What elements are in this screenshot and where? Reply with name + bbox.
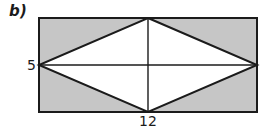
geometry-figure: b) 5 12 — [0, 0, 272, 131]
height-dimension-label: 5 — [25, 58, 36, 73]
width-dimension-label: 12 — [133, 114, 163, 129]
rhombus-in-rectangle-diagram — [0, 0, 272, 131]
